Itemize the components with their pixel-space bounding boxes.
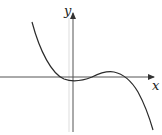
cubic-curve (32, 22, 153, 130)
y-axis-label: y (63, 3, 72, 18)
cubic-graph: y x (0, 0, 162, 135)
x-axis-label: x (152, 78, 160, 93)
